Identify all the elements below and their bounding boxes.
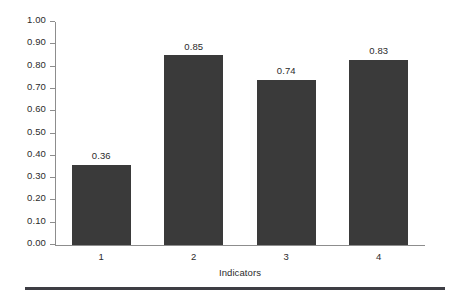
bar-value-label: 0.85: [184, 42, 203, 52]
bottom-divider-rule: [25, 287, 445, 290]
bar-group[interactable]: 0.85: [164, 22, 223, 245]
bar[interactable]: [349, 60, 408, 245]
y-axis-tick-label: 0.40: [27, 149, 46, 159]
x-axis-tick-label: 2: [148, 252, 241, 262]
y-axis-tick-label: 0.10: [27, 216, 46, 226]
bar-value-label: 0.74: [277, 66, 296, 76]
y-axis-tick-label: 0.30: [27, 171, 46, 181]
x-axis-tick-label: 3: [240, 252, 333, 262]
y-axis-tick-label: 0.00: [27, 238, 46, 248]
y-axis-tick-label: 0.90: [27, 37, 46, 47]
bar-group[interactable]: 0.36: [72, 22, 131, 245]
plot-area: 0.360.850.740.83: [55, 22, 425, 245]
bar-chart-figure: 0.000.100.200.300.400.500.600.700.800.90…: [0, 0, 463, 303]
bar-value-label: 0.36: [92, 151, 111, 161]
y-axis-tick-label: 0.60: [27, 104, 46, 114]
bar-group[interactable]: 0.74: [257, 22, 316, 245]
y-axis-tick-label: 1.00: [27, 15, 46, 25]
y-axis-tick-label: 0.50: [27, 127, 46, 137]
y-axis-tick-label: 0.70: [27, 82, 46, 92]
bar[interactable]: [257, 80, 316, 245]
bar[interactable]: [72, 165, 131, 245]
x-axis-line: [55, 245, 425, 246]
bar[interactable]: [164, 55, 223, 245]
x-axis-title: Indicators: [55, 268, 425, 278]
y-axis-tick-label: 0.80: [27, 60, 46, 70]
x-axis-tick-label: 4: [333, 252, 426, 262]
y-axis-tick-label: 0.20: [27, 193, 46, 203]
x-axis-tick-label: 1: [55, 252, 148, 262]
bar-group[interactable]: 0.83: [349, 22, 408, 245]
bar-value-label: 0.83: [369, 46, 388, 56]
